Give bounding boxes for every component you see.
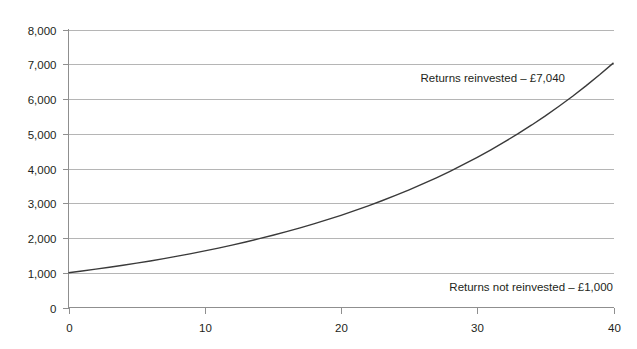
x-axis-tick-label: 30 xyxy=(471,322,484,334)
y-axis-tick-label: 0 xyxy=(50,303,56,315)
annotation-returns-reinvested: Returns reinvested – £7,040 xyxy=(421,72,565,84)
x-axis-tick-label: 40 xyxy=(608,322,621,334)
x-axis-tick-label: 20 xyxy=(335,322,348,334)
y-axis-tick-labels: 01,0002,0003,0004,0005,0006,0007,0008,00… xyxy=(28,25,57,315)
y-axis-tick-label: 8,000 xyxy=(28,25,57,37)
x-axis-tick-label: 0 xyxy=(66,322,72,334)
y-axis-tick-label: 4,000 xyxy=(28,164,57,176)
annotation-returns-not-reinvested: Returns not reinvested – £1,000 xyxy=(449,281,613,293)
y-axis-tick-label: 1,000 xyxy=(28,268,57,280)
y-axis-tick-label: 3,000 xyxy=(28,198,57,210)
y-axis-tick-label: 7,000 xyxy=(28,59,57,71)
gridlines-group xyxy=(69,31,614,274)
x-axis-tick-label: 10 xyxy=(199,322,212,334)
y-axis-tick-label: 6,000 xyxy=(28,94,57,106)
chart-canvas: 01,0002,0003,0004,0005,0006,0007,0008,00… xyxy=(0,0,637,349)
y-axis-tick-label: 5,000 xyxy=(28,129,57,141)
x-axis-tick-labels: 010203040 xyxy=(66,322,621,334)
y-axis-tick-label: 2,000 xyxy=(28,233,57,245)
returns-reinvested-line xyxy=(69,63,614,273)
compound-returns-chart: 01,0002,0003,0004,0005,0006,0007,0008,00… xyxy=(0,0,637,349)
